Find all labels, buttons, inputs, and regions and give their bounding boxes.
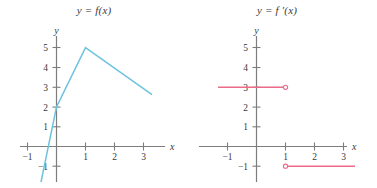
x-label-3-right: 3 <box>341 152 346 162</box>
open-circle-upper <box>283 85 287 89</box>
y-label-1-right: 1 <box>243 122 248 132</box>
y-axis-label-left: y <box>53 25 59 36</box>
y-label-4-left: 4 <box>43 63 48 73</box>
x-label-1-right: 1 <box>283 152 288 162</box>
x-label-2-right: 2 <box>312 152 317 162</box>
y-label-2-right: 2 <box>243 103 248 113</box>
x-label-2-left: 2 <box>112 152 117 162</box>
y-label-3-left: 3 <box>43 83 48 93</box>
y-axis-label-right: y <box>253 25 259 36</box>
panel-derivative-graph: y = f ′(x) −1 1 2 3 5 4 3 <box>189 0 377 188</box>
x-label-neg1-left: −1 <box>22 152 32 162</box>
plot-left: −1 1 2 3 5 4 3 2 1 −1 x y <box>0 0 188 188</box>
y-label-5-right: 5 <box>243 43 248 53</box>
open-circle-lower <box>283 164 287 168</box>
derivative-graph-figure: y = f(x) −1 1 2 3 5 4 3 <box>0 0 377 188</box>
x-label-1-left: 1 <box>83 152 88 162</box>
y-label-1-left: 1 <box>43 122 48 132</box>
panel-function-graph: y = f(x) −1 1 2 3 5 4 3 <box>0 0 188 188</box>
y-label-neg1-right: −1 <box>238 162 248 172</box>
y-label-4-right: 4 <box>243 63 248 73</box>
plot-right: −1 1 2 3 5 4 3 2 1 −1 x y <box>189 0 377 188</box>
x-label-neg1-right: −1 <box>222 152 232 162</box>
y-label-2-left: 2 <box>43 103 48 113</box>
y-label-5-left: 5 <box>43 43 48 53</box>
x-axis-label-right: x <box>351 141 357 152</box>
x-label-3-left: 3 <box>141 152 146 162</box>
x-axis-label-left: x <box>169 141 175 152</box>
